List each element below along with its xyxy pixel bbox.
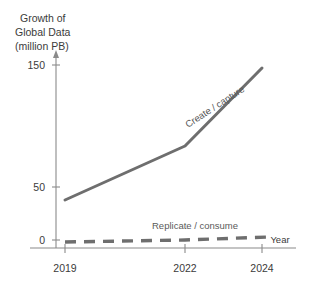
series-annotation-replicate-consume: Replicate / consume xyxy=(152,220,238,231)
x-tick-label-2022: 2022 xyxy=(173,262,197,274)
line-chart: Growth of Global Data (million PB) 150 5… xyxy=(0,0,314,288)
y-tick-label-50: 50 xyxy=(33,181,45,193)
chart-title-line-1: Growth of xyxy=(20,12,66,24)
chart-container: Growth of Global Data (million PB) 150 5… xyxy=(0,0,314,288)
chart-title-line-2: Global Data xyxy=(15,26,71,38)
x-tick-label-2019: 2019 xyxy=(53,262,77,274)
x-tick-label-2024: 2024 xyxy=(250,262,274,274)
x-axis-label: Year xyxy=(270,234,289,245)
chart-title-line-3: (million PB) xyxy=(15,40,69,52)
y-tick-label-0: 0 xyxy=(39,234,45,246)
y-tick-label-150: 150 xyxy=(27,59,45,71)
